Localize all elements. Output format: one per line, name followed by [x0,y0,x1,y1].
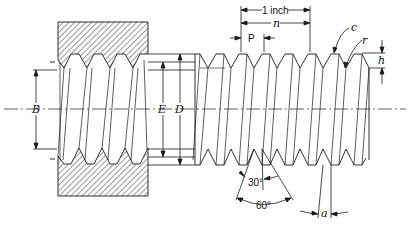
screw-shaft [193,54,369,165]
dimension-E-D [148,54,195,165]
label-c: c [351,21,357,34]
thread-diagram: B E D [0,0,408,232]
label-60-deg: 60° [256,200,271,211]
angle-annotations [236,149,293,205]
nut-top-body [58,22,148,68]
label-P: P [248,33,255,44]
label-1-inch: 1 inch [262,5,289,16]
nut-bottom-body [58,148,148,196]
label-B: B [31,103,40,116]
label-n: n [273,17,280,30]
label-h: h [378,54,385,67]
nut-thread-helix [58,60,147,160]
label-30-deg: 30° [248,177,263,188]
label-D: D [174,103,184,116]
label-r: r [362,34,368,47]
leader-crest-root [333,28,362,68]
label-E: E [157,103,166,116]
label-a: a [321,207,328,220]
